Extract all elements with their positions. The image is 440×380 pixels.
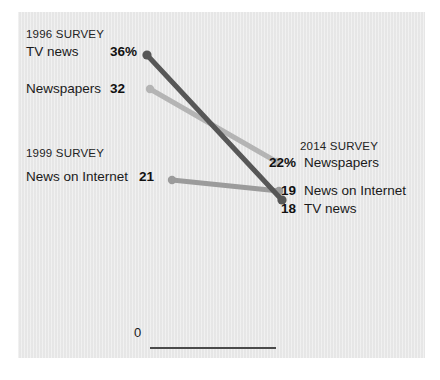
series-label-tv-news-1996: TV news	[26, 44, 110, 59]
survey-header-1999: 1999 SURVEY	[26, 147, 104, 160]
datapoint-newspapers-1996	[146, 85, 154, 93]
label-row-news-on-internet-1999: News on Internet 21	[26, 169, 154, 184]
datapoint-tv-news-1996	[142, 50, 151, 59]
slope-chart-figure: 1996 SURVEY TV news 36% Newspapers 32 19…	[0, 0, 440, 380]
label-row-tv-news-2014: 18 TV news	[262, 201, 357, 216]
value-news-on-internet-1999: 21	[139, 169, 154, 184]
value-newspapers-1996: 32	[110, 81, 125, 96]
value-newspapers-2014: 22%	[262, 155, 296, 170]
axis-zero-tick-label: 0	[134, 326, 141, 340]
label-row-newspapers-2014: 22% Newspapers	[262, 155, 379, 170]
series-label-tv-news-2014: TV news	[304, 201, 357, 216]
series-label-news-on-internet-2014: News on Internet	[304, 183, 406, 198]
label-row-tv-news-1996: TV news 36%	[26, 44, 137, 59]
series-label-news-on-internet-1999: News on Internet	[26, 169, 139, 184]
value-tv-news-2014: 18	[262, 201, 296, 216]
value-tv-news-1996: 36%	[110, 44, 137, 59]
survey-header-2014: 2014 SURVEY	[300, 140, 378, 153]
series-line-tv-news	[142, 50, 286, 204]
label-row-news-on-internet-2014: 19 News on Internet	[262, 183, 406, 198]
value-news-on-internet-2014: 19	[262, 183, 296, 198]
series-label-newspapers-1996: Newspapers	[26, 81, 110, 96]
datapoint-internet-1999	[168, 176, 176, 184]
survey-header-1996: 1996 SURVEY	[26, 28, 104, 41]
label-row-newspapers-1996: Newspapers 32	[26, 81, 125, 96]
series-label-newspapers-2014: Newspapers	[304, 155, 379, 170]
